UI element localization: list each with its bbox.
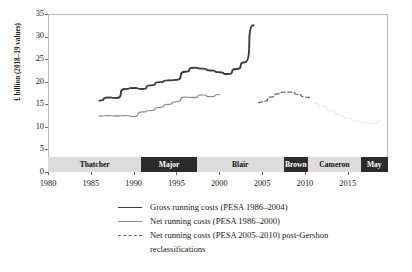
chart-legend: Gross running costs (PESA 1986–2004)Net … xyxy=(118,201,408,255)
era-label-cameron: Cameron xyxy=(319,160,349,169)
legend-item-2[interactable]: Net running costs (PESA 2005–2010) post-… xyxy=(118,229,408,243)
era-segment-blair: Blair xyxy=(197,157,283,172)
y-tick-label-0: 0 xyxy=(24,168,44,176)
era-label-major: Major xyxy=(159,160,180,169)
y-tick-label-35: 35 xyxy=(24,10,44,18)
era-label-blair: Blair xyxy=(232,160,248,169)
y-axis-tick-labels: 05101520253035 xyxy=(20,0,44,272)
x-tick-label-1980: 1980 xyxy=(28,180,68,188)
chart-container: £ billion (2018–19 values) 0510152025303… xyxy=(0,0,412,272)
x-tick-mark-1995 xyxy=(176,172,177,175)
y-tick-mark-5 xyxy=(45,149,48,150)
y-tick-label-25: 25 xyxy=(24,55,44,63)
x-tick-label-2010: 2010 xyxy=(285,180,325,188)
x-tick-mark-1990 xyxy=(134,172,135,175)
y-tick-mark-35 xyxy=(45,14,48,15)
x-tick-label-2000: 2000 xyxy=(199,180,239,188)
legend-label-2: Net running costs (PESA 2005–2010) post-… xyxy=(150,230,328,240)
x-tick-mark-2000 xyxy=(219,172,220,175)
x-tick-mark-1980 xyxy=(48,172,49,175)
pm-era-band: ThatcherMajorBlairBrownCameronMay xyxy=(48,157,388,172)
series-line-2 xyxy=(259,92,310,102)
y-tick-mark-15 xyxy=(45,104,48,105)
x-tick-label-2005: 2005 xyxy=(242,180,282,188)
y-tick-mark-20 xyxy=(45,82,48,83)
plot-series-svg xyxy=(48,14,388,172)
y-tick-mark-30 xyxy=(45,37,48,38)
era-segment-cameron: Cameron xyxy=(308,157,360,172)
x-tick-label-1995: 1995 xyxy=(156,180,196,188)
x-tick-mark-1985 xyxy=(91,172,92,175)
series-line-0 xyxy=(99,25,253,100)
legend-label-0: Gross running costs (PESA 1986–2004) xyxy=(150,202,288,212)
legend-swatch-1 xyxy=(118,221,142,222)
era-segment-may: May xyxy=(361,157,388,172)
y-tick-label-5: 5 xyxy=(24,145,44,153)
y-tick-mark-25 xyxy=(45,59,48,60)
x-tick-mark-2015 xyxy=(348,172,349,175)
era-segment-major: Major xyxy=(141,157,197,172)
legend-label-1: Net running costs (PESA 1986–2000) xyxy=(150,216,280,226)
x-tick-label-2015: 2015 xyxy=(328,180,368,188)
era-label-brown: Brown xyxy=(285,160,307,169)
legend-swatch-0 xyxy=(118,207,142,208)
x-tick-mark-2005 xyxy=(262,172,263,175)
x-tick-label-1990: 1990 xyxy=(114,180,154,188)
era-segment-thatcher: Thatcher xyxy=(48,157,141,172)
legend-item-1[interactable]: Net running costs (PESA 1986–2000) xyxy=(118,215,408,229)
era-label-thatcher: Thatcher xyxy=(80,160,110,169)
y-tick-mark-10 xyxy=(45,127,48,128)
legend-swatch-2 xyxy=(118,235,142,236)
y-tick-label-30: 30 xyxy=(24,32,44,40)
era-segment-brown: Brown xyxy=(284,157,309,172)
legend-item-0[interactable]: Gross running costs (PESA 1986–2004) xyxy=(118,201,408,215)
series-line-3 xyxy=(313,103,382,123)
legend-label-2-line2: reclassifications xyxy=(118,243,408,255)
y-tick-label-10: 10 xyxy=(24,123,44,131)
y-tick-label-15: 15 xyxy=(24,100,44,108)
era-label-may: May xyxy=(367,160,382,169)
x-tick-label-1985: 1985 xyxy=(71,180,111,188)
x-tick-mark-2010 xyxy=(305,172,306,175)
y-tick-label-20: 20 xyxy=(24,78,44,86)
